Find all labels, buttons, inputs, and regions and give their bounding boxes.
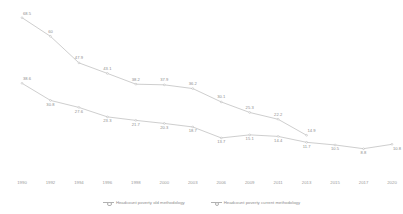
legend-line-icon — [211, 202, 222, 203]
x-axis-tick-label: 2020 — [387, 181, 397, 185]
legend-item-old-methodology[interactable]: Headcount poverty old methodology — [103, 201, 185, 205]
x-axis-tick-label: 1998 — [131, 181, 141, 185]
x-axis-tick-label: 1994 — [74, 181, 84, 185]
data-point[interactable] — [78, 62, 80, 64]
legend-label: Headcount poverty old methodology — [116, 201, 185, 205]
data-point-label: 18.7 — [189, 129, 197, 133]
data-point-label: 47.9 — [75, 56, 83, 60]
series-line — [22, 83, 392, 148]
series-lines — [0, 0, 403, 178]
line-chart: 68.56047.943.138.237.936.230.125.322.214… — [0, 0, 403, 214]
x-axis-tick-label: 2009 — [245, 181, 255, 185]
data-point-label: 27.6 — [75, 110, 83, 114]
data-point-label: 22.2 — [274, 113, 282, 117]
data-point[interactable] — [106, 73, 108, 75]
data-point-label: 10.8 — [393, 147, 401, 151]
data-point-label: 8.8 — [361, 151, 367, 155]
data-point-label: 14.9 — [308, 129, 316, 133]
data-point-label: 36.2 — [189, 82, 197, 86]
x-axis-tick-label: 2011 — [274, 181, 283, 185]
data-point-label: 37.9 — [160, 78, 168, 82]
data-point-label: 43.1 — [103, 67, 111, 71]
data-point[interactable] — [277, 118, 279, 120]
data-point-label: 68.5 — [23, 12, 31, 16]
data-point-label: 30.8 — [46, 103, 54, 107]
data-point-label: 20.3 — [160, 126, 168, 130]
x-axis-tick-label: 1990 — [17, 181, 27, 185]
data-point[interactable] — [192, 88, 194, 90]
data-point-label: 60 — [48, 30, 53, 34]
data-point-label: 14.4 — [274, 139, 282, 143]
plot-area: 68.56047.943.138.237.936.230.125.322.214… — [0, 0, 403, 178]
data-point-label: 25.3 — [246, 106, 254, 110]
data-point[interactable] — [249, 112, 251, 114]
x-axis-tick-label: 2006 — [216, 181, 226, 185]
x-axis-tick-label: 2015 — [330, 181, 340, 185]
legend-label: Headcount poverty current methodology — [224, 201, 300, 205]
x-axis-tick-label: 2013 — [302, 181, 312, 185]
x-axis-tick-label: 1992 — [46, 181, 56, 185]
data-point-label: 13.7 — [217, 140, 225, 144]
data-point-label: 21.7 — [132, 123, 140, 127]
data-point[interactable] — [220, 101, 222, 103]
data-point-label: 15.1 — [246, 137, 254, 141]
data-point-label: 30.1 — [217, 95, 225, 99]
data-point[interactable] — [21, 82, 23, 84]
data-point-label: 10.5 — [331, 147, 339, 151]
legend-item-current-methodology[interactable]: Headcount poverty current methodology — [211, 201, 300, 205]
chart-legend: Headcount poverty old methodology Headco… — [0, 196, 403, 210]
data-point-label: 11.7 — [303, 145, 311, 149]
x-axis-tick-label: 2003 — [188, 181, 198, 185]
data-point-label: 38.2 — [132, 78, 140, 82]
data-point[interactable] — [50, 35, 52, 37]
x-axis-tick-label: 2000 — [160, 181, 170, 185]
data-point-label: 23.3 — [103, 119, 111, 123]
legend-line-icon — [103, 202, 114, 203]
data-point[interactable] — [135, 83, 137, 85]
x-axis-tick-label: 1996 — [103, 181, 113, 185]
data-point[interactable] — [306, 134, 308, 136]
data-point[interactable] — [163, 84, 165, 86]
data-point[interactable] — [21, 17, 23, 19]
x-axis: 1990199219941996199820002003200620092011… — [0, 178, 403, 194]
data-point-label: 38.6 — [23, 77, 31, 81]
x-axis-tick-label: 2017 — [359, 181, 369, 185]
